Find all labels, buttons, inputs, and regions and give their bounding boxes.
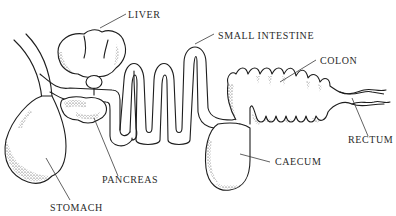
label-liver: LIVER xyxy=(128,10,160,20)
label-stomach: STOMACH xyxy=(50,203,103,213)
stomach xyxy=(5,96,66,183)
label-small-intestine: SMALL INTESTINE xyxy=(218,31,314,41)
leader-pancreas xyxy=(94,118,118,176)
oesophagus xyxy=(14,34,52,100)
leader-liver xyxy=(100,14,126,28)
liver xyxy=(58,30,126,95)
pancreas xyxy=(61,97,107,123)
label-colon: COLON xyxy=(320,56,357,66)
label-caecum: CAECUM xyxy=(275,157,321,167)
label-rectum: RECTUM xyxy=(348,135,393,145)
colon xyxy=(227,68,384,124)
caecum xyxy=(206,123,251,190)
leader-rectum xyxy=(352,98,368,136)
leader-small-intestine xyxy=(195,34,214,44)
label-pancreas: PANCREAS xyxy=(102,175,158,185)
digestive-tract-diagram xyxy=(0,0,396,216)
